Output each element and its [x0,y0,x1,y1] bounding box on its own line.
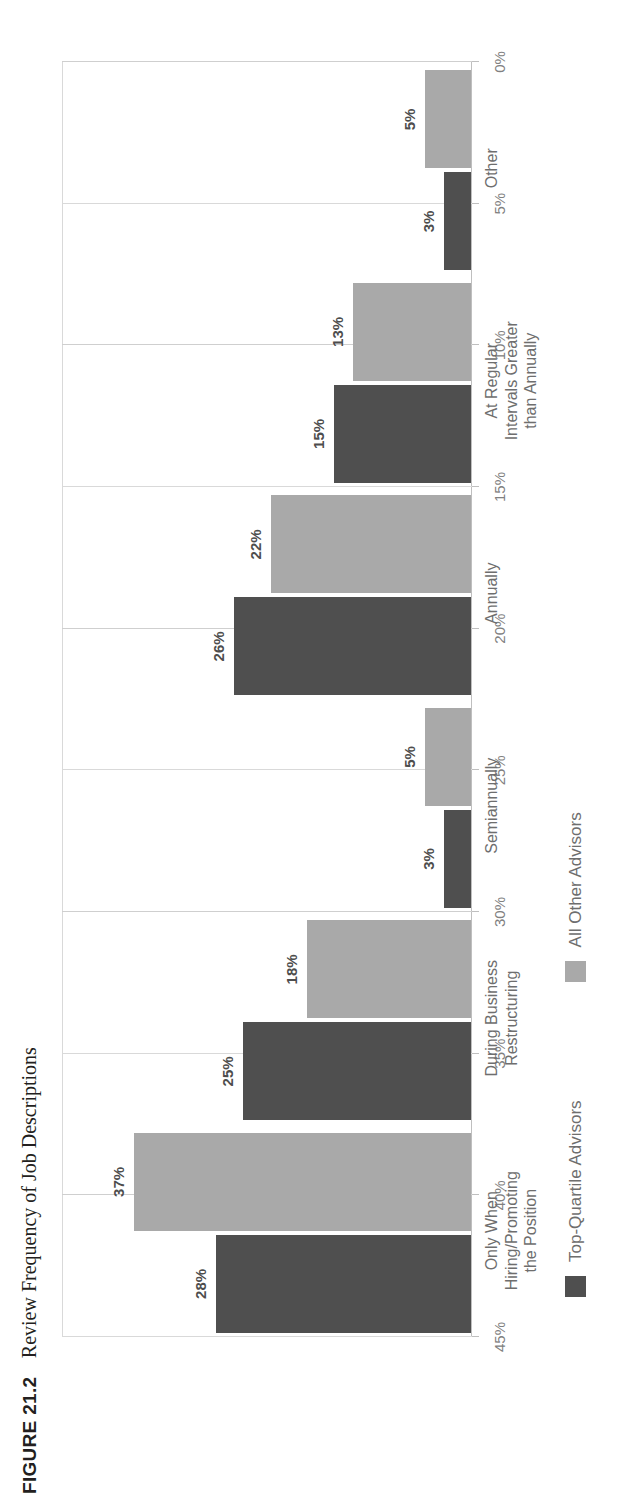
category-label: Annually [482,487,502,700]
category-label-line: During Business [482,912,502,1125]
category-label-line: than Annually [521,275,541,488]
bar-all-other: 5% [425,708,471,806]
axis-tick [472,1194,479,1195]
axis-tick [472,628,479,629]
axis-tick [472,911,479,912]
value-axis-line [471,62,472,1337]
bar-value-label: 26% [210,631,227,661]
category-label: Only WhenHiring/Promotingthe Position [482,1125,541,1338]
figure-container: FIGURE 21.2 Review Frequency of Job Desc… [0,0,635,1512]
axis-tick [472,61,479,62]
bar-top-quartile: 3% [444,173,471,271]
bar-top-quartile: 15% [334,385,471,483]
bar-value-label: 18% [283,954,300,984]
category-label-line: Intervals Greater [502,275,522,488]
category-label: At RegularIntervals Greaterthan Annually [482,275,541,488]
bar-top-quartile: 28% [216,1235,471,1333]
axis-tick [472,1336,479,1337]
bar-value-label: 5% [401,109,418,131]
legend-item: All Other Advisors [565,812,586,982]
category-label: Semiannually [482,700,502,913]
chart-plot-area: 0%5%10%15%20%25%30%35%40%45% 28%37%25%18… [62,62,472,1337]
legend-swatch-icon [565,961,586,982]
bar-group: 25%18% [61,912,471,1125]
bar-value-label: 3% [420,848,437,870]
category-label-line: the Position [521,1125,541,1338]
bar-all-other: 18% [307,921,471,1019]
bar-all-other: 5% [425,71,471,169]
category-label-line: Annually [482,487,502,700]
bar-value-label: 25% [219,1056,236,1086]
bar-value-label: 3% [420,211,437,233]
category-label-line: Other [482,62,502,275]
bar-all-other: 22% [271,496,471,594]
category-label-line: Semiannually [482,700,502,913]
axis-tick [472,203,479,204]
bar-value-label: 15% [310,419,327,449]
bar-group: 3%5% [61,62,471,275]
category-label-line: At Regular [482,275,502,488]
bar-value-label: 37% [110,1167,127,1197]
legend-item: Top-Quartile Advisors [565,1100,586,1297]
figure-number: FIGURE 21.2 [19,1377,40,1494]
axis-tick [472,486,479,487]
category-label-line: Hiring/Promoting [502,1125,522,1338]
bar-group: 26%22% [61,487,471,700]
bar-value-label: 13% [329,317,346,347]
bar-group: 28%37% [61,1125,471,1338]
legend-swatch-icon [565,1276,586,1297]
category-label: During BusinessRestructuring [482,912,521,1125]
legend-label: All Other Advisors [566,812,586,947]
figure-caption: FIGURE 21.2 Review Frequency of Job Desc… [18,494,41,1494]
bar-top-quartile: 3% [444,810,471,908]
bar-group: 15%13% [61,275,471,488]
category-label: Other [482,62,502,275]
bar-all-other: 13% [353,283,471,381]
bar-value-label: 28% [192,1269,209,1299]
bar-all-other: 37% [134,1133,471,1231]
axis-tick [472,344,479,345]
bar-group: 3%5% [61,700,471,913]
bar-top-quartile: 25% [243,1023,471,1121]
bar-value-label: 5% [401,746,418,768]
axis-tick [472,1053,479,1054]
category-label-line: Restructuring [502,912,522,1125]
category-label-line: Only When [482,1125,502,1338]
figure-title: Review Frequency of Job Descriptions [18,1047,40,1358]
legend-label: Top-Quartile Advisors [566,1100,586,1262]
axis-tick [472,769,479,770]
chart-legend: Top-Quartile AdvisorsAll Other Advisors [565,812,586,1297]
rotated-page-wrapper: FIGURE 21.2 Review Frequency of Job Desc… [0,0,635,1512]
bar-top-quartile: 26% [234,598,471,696]
bar-value-label: 22% [247,529,264,559]
